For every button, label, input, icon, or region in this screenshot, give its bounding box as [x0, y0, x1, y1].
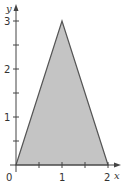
shaded-triangle-region — [16, 21, 108, 165]
x-axis-arrow-icon — [114, 163, 121, 168]
y-tick-label-3: 3 — [4, 16, 10, 27]
y-axis-label: y — [5, 3, 12, 14]
origin-label: 0 — [6, 172, 12, 183]
x-tick-label-1: 1 — [59, 172, 65, 183]
y-tick-label-2: 2 — [4, 64, 10, 75]
y-tick-label-1: 1 — [4, 112, 10, 123]
x-tick-label-2: 2 — [104, 172, 110, 183]
x-axis-label: x — [114, 170, 120, 181]
triangle-plot: 3 2 1 0 1 2 y x — [0, 0, 126, 186]
y-axis-arrow-icon — [14, 4, 19, 11]
